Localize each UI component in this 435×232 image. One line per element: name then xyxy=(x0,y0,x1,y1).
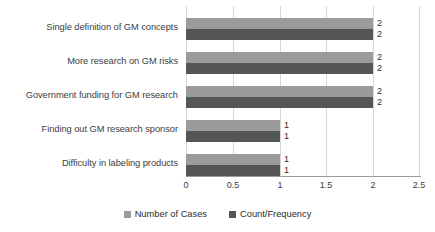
data-label-count-frequency: 1 xyxy=(284,131,289,141)
bar-number-of-cases xyxy=(186,86,373,97)
category-label: Single definition of GM concepts xyxy=(0,22,178,33)
tick-label: 0.5 xyxy=(227,179,240,191)
plot-area: 2 2 2 2 2 2 1 1 1 1 xyxy=(186,6,420,176)
chart-legend: Number of Cases Count/Frequency xyxy=(0,205,435,223)
category-axis-labels: Single definition of GM concepts More re… xyxy=(0,6,182,176)
category-label: Finding out GM research sponsor xyxy=(0,124,178,135)
bar-number-of-cases xyxy=(186,120,280,131)
data-label-number-of-cases: 2 xyxy=(377,52,382,62)
legend-label: Count/Frequency xyxy=(240,209,311,220)
tick-label: 2 xyxy=(370,179,375,191)
category-label: More research on GM risks xyxy=(0,56,178,67)
bar-count-frequency xyxy=(186,165,280,176)
bar-number-of-cases xyxy=(186,52,373,63)
data-label-number-of-cases: 2 xyxy=(377,18,382,28)
category-label: Difficulty in labeling products xyxy=(0,158,178,169)
category-label: Government funding for GM research xyxy=(0,90,178,101)
tick-label: 1.5 xyxy=(320,179,333,191)
tick-label: 0 xyxy=(183,179,188,191)
legend-swatch-icon xyxy=(124,211,131,218)
gridline-2 xyxy=(373,6,374,176)
gridline-2-5 xyxy=(419,6,420,176)
bar-number-of-cases xyxy=(186,154,280,165)
bar-count-frequency xyxy=(186,29,373,40)
bar-number-of-cases xyxy=(186,18,373,29)
tick-label: 1 xyxy=(277,179,282,191)
tick-label: 2.5 xyxy=(413,179,426,191)
data-label-count-frequency: 2 xyxy=(377,29,382,39)
data-label-number-of-cases: 1 xyxy=(284,120,289,130)
legend-swatch-icon xyxy=(229,211,236,218)
bar-count-frequency xyxy=(186,131,280,142)
bar-count-frequency xyxy=(186,63,373,74)
bar-count-frequency xyxy=(186,97,373,108)
data-label-number-of-cases: 1 xyxy=(284,154,289,164)
data-label-count-frequency: 2 xyxy=(377,63,382,73)
data-label-count-frequency: 2 xyxy=(377,97,382,107)
bar-chart: Single definition of GM concepts More re… xyxy=(0,0,435,232)
legend-item-count-frequency[interactable]: Count/Frequency xyxy=(229,209,311,220)
legend-label: Number of Cases xyxy=(135,209,207,220)
data-label-count-frequency: 1 xyxy=(284,165,289,175)
legend-item-number-of-cases[interactable]: Number of Cases xyxy=(124,209,207,220)
data-label-number-of-cases: 2 xyxy=(377,86,382,96)
value-axis-tick-labels: 0 0.5 1 1.5 2 2.5 xyxy=(186,179,421,193)
category-axis-line xyxy=(186,176,421,177)
